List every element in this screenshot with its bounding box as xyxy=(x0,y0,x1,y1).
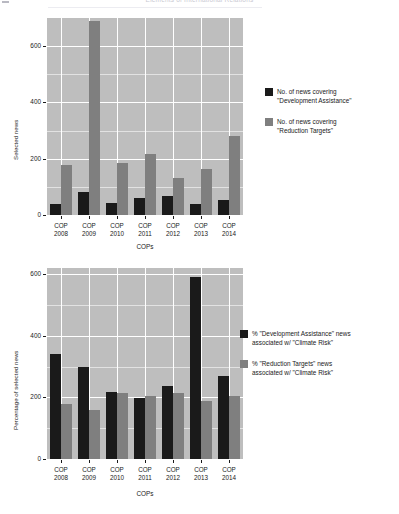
bar-top-s1-6 xyxy=(229,136,240,215)
bar-top-s1-4 xyxy=(173,178,184,215)
plot-area-top xyxy=(47,18,243,215)
x-tick-label-line: COP xyxy=(131,466,159,474)
x-tick-label: COP2013 xyxy=(187,466,215,482)
legend-label: No. of news covering "Reduction Targets" xyxy=(277,118,337,135)
bar-bottom-s0-1 xyxy=(78,367,89,459)
x-tick-label-line: COP xyxy=(131,222,159,230)
x-tick-label: COP2012 xyxy=(159,466,187,482)
x-tick-label-line: 2013 xyxy=(187,230,215,238)
x-tick-label: COP2011 xyxy=(131,466,159,482)
legend-item: % "Development Assistance" news associat… xyxy=(240,330,351,347)
x-tick-label: COP2011 xyxy=(131,222,159,238)
legend-swatch xyxy=(265,118,273,126)
bar-bottom-s1-2 xyxy=(117,393,128,459)
x-tick-label-line: 2013 xyxy=(187,474,215,482)
x-tick-label-line: COP xyxy=(47,466,75,474)
x-tick-label: COP2010 xyxy=(103,466,131,482)
x-tick-label-line: 2010 xyxy=(103,474,131,482)
y-tick-label: 600 xyxy=(15,42,41,49)
bar-bottom-s0-4 xyxy=(162,386,173,459)
y-tick-mark xyxy=(43,274,46,275)
x-tick-mark xyxy=(117,460,118,463)
x-tick-label-line: COP xyxy=(187,222,215,230)
x-tick-mark xyxy=(117,216,118,219)
x-tick-label-line: COP xyxy=(159,222,187,230)
x-tick-label-line: 2010 xyxy=(103,230,131,238)
plot-area-bottom xyxy=(47,268,243,459)
x-tick-label-line: COP xyxy=(103,466,131,474)
bar-top-s0-5 xyxy=(190,204,201,215)
x-tick-mark xyxy=(201,460,202,463)
legend-label: No. of news covering "Development Assist… xyxy=(277,88,352,105)
y-axis-label-top: Selected news xyxy=(12,120,19,160)
page-title: Elements of International Relations xyxy=(0,0,399,4)
legend-item: % "Reduction Targets" news associated w/… xyxy=(240,360,333,377)
legend-swatch xyxy=(240,360,248,368)
bar-top-s1-1 xyxy=(89,21,100,215)
x-tick-label-line: 2012 xyxy=(159,230,187,238)
y-tick-mark xyxy=(43,159,46,160)
bar-top-s1-5 xyxy=(201,169,212,215)
x-tick-label-line: 2014 xyxy=(215,230,243,238)
y-tick-label: 600 xyxy=(15,270,41,277)
x-tick-mark xyxy=(89,460,90,463)
x-tick-label: COP2014 xyxy=(215,222,243,238)
x-tick-label-line: 2012 xyxy=(159,474,187,482)
bar-bottom-s0-2 xyxy=(106,392,117,459)
x-tick-label-line: COP xyxy=(103,222,131,230)
legend-swatch xyxy=(265,88,273,96)
x-tick-label-line: COP xyxy=(159,466,187,474)
x-tick-mark xyxy=(173,216,174,219)
figure-percentage-selected-news: 0200400600COP2008COP2009COP2010COP2011CO… xyxy=(0,262,399,514)
y-tick-mark xyxy=(43,397,46,398)
bar-top-s0-2 xyxy=(106,203,117,215)
x-tick-label: COP2012 xyxy=(159,222,187,238)
x-tick-mark xyxy=(61,216,62,219)
y-tick-mark xyxy=(43,46,46,47)
bar-bottom-s1-1 xyxy=(89,410,100,459)
bar-bottom-s1-4 xyxy=(173,393,184,459)
legend-swatch xyxy=(240,330,248,338)
x-tick-label: COP2010 xyxy=(103,222,131,238)
x-tick-mark xyxy=(89,216,90,219)
x-tick-mark xyxy=(173,460,174,463)
bar-top-s0-3 xyxy=(134,198,145,215)
x-tick-mark xyxy=(145,460,146,463)
x-tick-mark xyxy=(201,216,202,219)
bar-bottom-s0-5 xyxy=(190,277,201,459)
bar-bottom-s1-3 xyxy=(145,396,156,459)
bar-bottom-s1-6 xyxy=(229,396,240,459)
x-tick-label-line: 2008 xyxy=(47,230,75,238)
page-title-rule xyxy=(48,7,262,8)
bar-top-s0-4 xyxy=(162,196,173,215)
y-tick-label: 0 xyxy=(15,211,41,218)
y-axis-label-bottom: Percentage of selected news xyxy=(12,351,19,430)
bar-bottom-s1-5 xyxy=(201,401,212,459)
bar-bottom-s0-3 xyxy=(134,398,145,459)
bar-top-s1-0 xyxy=(61,165,72,215)
x-tick-mark xyxy=(229,460,230,463)
x-tick-label-line: 2009 xyxy=(75,474,103,482)
y-tick-mark xyxy=(43,336,46,337)
x-tick-label-line: 2009 xyxy=(75,230,103,238)
x-axis-label-top: COPs xyxy=(47,243,243,250)
bar-top-s0-1 xyxy=(78,192,89,215)
x-axis-label-bottom: COPs xyxy=(47,490,243,497)
x-tick-label-line: 2011 xyxy=(131,474,159,482)
x-tick-label: COP2014 xyxy=(215,466,243,482)
x-tick-label-line: COP xyxy=(215,466,243,474)
bar-top-s0-6 xyxy=(218,200,229,215)
y-tick-mark xyxy=(43,215,46,216)
bar-bottom-s1-0 xyxy=(61,404,72,459)
legend-label: % "Development Assistance" news associat… xyxy=(252,330,351,347)
legend-top: No. of news covering "Development Assist… xyxy=(265,88,395,158)
x-tick-label: COP2009 xyxy=(75,222,103,238)
x-tick-label: COP2013 xyxy=(187,222,215,238)
x-tick-label-line: 2011 xyxy=(131,230,159,238)
x-tick-label-line: 2008 xyxy=(47,474,75,482)
x-tick-mark xyxy=(61,460,62,463)
y-tick-mark xyxy=(43,459,46,460)
figure-selected-news: 0200400600COP2008COP2009COP2010COP2011CO… xyxy=(0,10,399,260)
x-tick-label-line: 2014 xyxy=(215,474,243,482)
legend-item: No. of news covering "Development Assist… xyxy=(265,88,352,105)
